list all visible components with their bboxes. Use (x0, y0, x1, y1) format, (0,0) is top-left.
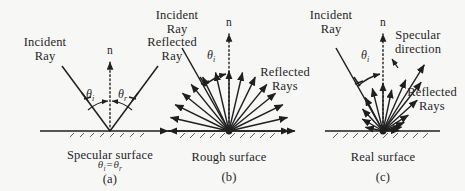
panel-b-subcaption: (b) (221, 170, 236, 184)
panel-c-incidence-angle-arc (358, 74, 380, 86)
panel-b-caption: Rough surface (191, 150, 266, 164)
panel-a-reflected-ray-arrowhead (132, 93, 138, 101)
panel-a-reflected-ray-label: Reflected Ray (147, 35, 197, 63)
panel-a-surface-hatching (70, 133, 144, 137)
panel-c-reflected-rays-label: Reflected Rays (407, 85, 457, 113)
panel-b-reflected-rays-label: Reflected Rays (260, 65, 310, 93)
panel-c-incident-ray-label: Incident Ray (310, 8, 353, 36)
panel-c-reflection-point (380, 128, 387, 135)
panel-c-subcaption: (c) (376, 170, 390, 184)
panel-c-specular-direction-pointer (392, 59, 398, 68)
panel-b-theta-i-label: θi (207, 49, 216, 65)
panel-a-normal-label: n (107, 44, 113, 57)
panel-a-incident-ray-label: Incident Ray (24, 35, 67, 63)
panel-b-normal-label: n (226, 16, 232, 29)
panel-a-subcaption: (a) (103, 172, 117, 186)
panel-a-theta-i-label: θi (86, 88, 95, 104)
panel-c-normal-label: n (380, 16, 386, 29)
panel-a-graphics (40, 62, 180, 137)
panel-c-caption: Real surface (351, 150, 416, 164)
panel-b-incident-ray-label: Incident Ray (156, 8, 199, 36)
panel-c-surface-hatching (333, 133, 428, 138)
panel-c-specular-direction-label: Specular direction (395, 28, 441, 56)
panel-b-incidence-angle-arc (204, 74, 226, 86)
panel-a-theta-r-label: θr (118, 88, 127, 104)
panel-b-reflection-point (226, 128, 233, 135)
reflection-diagram-figure: Incident Ray Reflected Ray n θi θr Specu… (0, 0, 465, 191)
panel-c-theta-i-label: θi (361, 49, 370, 65)
